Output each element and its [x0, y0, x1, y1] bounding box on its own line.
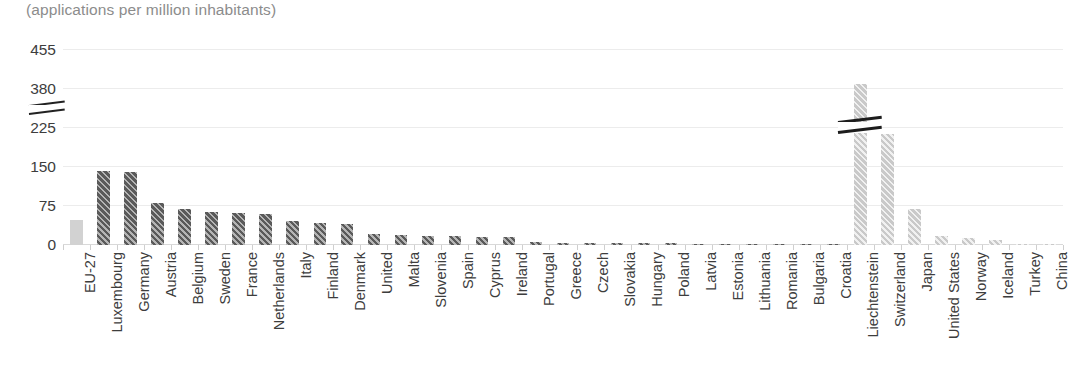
bar — [449, 236, 462, 245]
x-axis-label-denmark: Denmark — [352, 252, 368, 311]
y-tick-label-380: 380 — [0, 80, 56, 98]
bar-slot — [665, 50, 678, 245]
x-tick — [1009, 245, 1010, 250]
x-tick — [495, 245, 496, 250]
x-tick — [225, 245, 226, 250]
x-axis-label-china: China — [1054, 252, 1069, 290]
bar — [232, 213, 245, 245]
y-tick-label-0: 0 — [0, 236, 56, 254]
x-tick — [901, 245, 902, 250]
x-axis-label-liechtenstein: Liechtenstein — [865, 252, 881, 337]
x-axis-label-text: Belgium — [190, 252, 206, 304]
x-axis-label-iceland: Iceland — [1000, 252, 1016, 299]
x-axis-label-netherlands: Netherlands — [271, 252, 287, 330]
x-axis-label-text: Iceland — [1000, 252, 1016, 299]
x-tick — [171, 245, 172, 250]
x-axis-label-text: Cyprus — [487, 252, 503, 298]
x-axis-label-text: Italy — [298, 252, 314, 279]
bar — [205, 212, 218, 245]
x-tick — [414, 245, 415, 250]
bar-slot — [178, 50, 191, 245]
bar — [151, 203, 164, 245]
x-axis-label-text: Lithuania — [757, 252, 773, 311]
x-axis-label-lithuania: Lithuania — [757, 252, 773, 311]
x-axis-label-estonia: Estonia — [730, 252, 746, 300]
y-tick-label-225: 225 — [0, 119, 56, 137]
bar — [908, 209, 921, 245]
x-axis-label-norway: Norway — [973, 252, 989, 301]
bar-slot — [422, 50, 435, 245]
x-tick — [847, 245, 848, 250]
x-tick — [658, 245, 659, 250]
x-axis-label-portugal: Portugal — [541, 252, 557, 306]
bar — [259, 214, 272, 245]
bar — [368, 234, 381, 245]
bar — [286, 221, 299, 245]
x-tick — [712, 245, 713, 250]
x-axis-label-text: Sweden — [217, 252, 233, 304]
x-tick — [90, 245, 91, 250]
x-axis-label-ireland: Ireland — [514, 252, 530, 296]
x-tick — [766, 245, 767, 250]
x-tick — [874, 245, 875, 250]
bar — [503, 237, 516, 245]
bar-slot — [827, 50, 840, 245]
bar-slot — [908, 50, 921, 245]
x-axis-label-united-states: United States — [946, 252, 962, 339]
x-axis-label-latvia: Latvia — [703, 252, 719, 291]
bar-slot — [854, 50, 867, 245]
x-axis-label-japan: Japan — [919, 252, 935, 292]
x-axis-label-cyprus: Cyprus — [487, 252, 503, 298]
x-axis-label-poland: Poland — [676, 252, 692, 297]
x-axis-label-austria: Austria — [163, 252, 179, 297]
bar-slot — [773, 50, 786, 245]
bar-slot — [557, 50, 570, 245]
bar-slot — [259, 50, 272, 245]
bar — [935, 236, 948, 245]
x-tick — [198, 245, 199, 250]
x-axis-label-text: Spain — [460, 252, 476, 289]
bar-slot — [530, 50, 543, 245]
x-axis-label-text: China — [1054, 252, 1069, 290]
x-axis-label-turkey: Turkey — [1027, 252, 1043, 296]
bar — [476, 237, 489, 245]
bar-slot — [341, 50, 354, 245]
x-tick — [739, 245, 740, 250]
x-axis-label-text: Malta — [406, 252, 422, 287]
x-axis-label-text: Bulgaria — [811, 252, 827, 305]
bar-slot — [719, 50, 732, 245]
bar-slot — [611, 50, 624, 245]
x-axis-label-text: Norway — [973, 252, 989, 301]
x-axis-label-text: Ireland — [514, 252, 530, 296]
x-tick — [549, 245, 550, 250]
bar-slot — [962, 50, 975, 245]
x-axis-label-eu-27: EU-27 — [82, 252, 98, 293]
x-axis-label-text: United — [379, 252, 395, 294]
bar-slot — [124, 50, 137, 245]
x-axis-label-text: Finland — [325, 252, 341, 300]
x-tick — [522, 245, 523, 250]
bar-slot — [286, 50, 299, 245]
x-axis-label-slovakia: Slovakia — [622, 252, 638, 307]
bar-slot — [503, 50, 516, 245]
x-axis-label-text: Turkey — [1027, 252, 1043, 296]
bar-slot — [151, 50, 164, 245]
x-tick — [820, 245, 821, 250]
x-tick — [1063, 245, 1064, 250]
x-tick — [793, 245, 794, 250]
bar-slot — [692, 50, 705, 245]
bar — [962, 238, 975, 245]
x-axis-label-germany: Germany — [136, 252, 152, 312]
bar — [97, 171, 110, 245]
bar-slot — [97, 50, 110, 245]
x-tick — [279, 245, 280, 250]
x-axis-label-text: Slovenia — [433, 252, 449, 308]
x-axis-label-text: Luxembourg — [109, 252, 125, 333]
x-tick — [387, 245, 388, 250]
bar-slot — [1043, 50, 1056, 245]
x-tick — [144, 245, 145, 250]
x-axis-label-united: United — [379, 252, 395, 294]
x-axis-label-luxembourg: Luxembourg — [109, 252, 125, 333]
x-axis-label-hungary: Hungary — [649, 252, 665, 307]
bar-slot — [800, 50, 813, 245]
